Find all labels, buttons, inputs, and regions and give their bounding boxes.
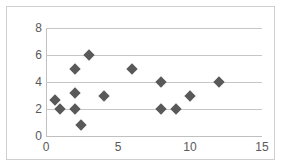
data-point [98, 90, 109, 101]
chart-frame: 02468 051015 [6, 6, 275, 160]
data-point [213, 76, 224, 87]
data-point [69, 63, 80, 74]
gridline-y-4 [46, 82, 262, 83]
x-tick-label: 5 [103, 140, 133, 154]
data-point [156, 76, 167, 87]
y-axis-tick-labels: 02468 [13, 28, 42, 136]
data-point [84, 49, 95, 60]
scatter-plot-screenshot: 02468 051015 [0, 0, 282, 167]
y-tick-label: 8 [18, 22, 42, 34]
x-tick-label: 0 [31, 140, 61, 154]
x-axis-line [46, 136, 262, 137]
data-point [55, 103, 66, 114]
y-tick-label: 6 [18, 49, 42, 61]
data-point [75, 120, 86, 131]
plot-area [46, 28, 262, 136]
data-point [156, 103, 167, 114]
data-point [170, 103, 181, 114]
x-tick-label: 15 [247, 140, 277, 154]
gridline-y-8 [46, 28, 262, 29]
data-point [184, 90, 195, 101]
data-point [127, 63, 138, 74]
x-tick-label: 10 [175, 140, 205, 154]
y-tick-label: 4 [18, 76, 42, 88]
y-tick-label: 2 [18, 103, 42, 115]
data-point [69, 87, 80, 98]
gridline-y-6 [46, 55, 262, 56]
data-point [69, 103, 80, 114]
x-axis-tick-labels: 051015 [46, 140, 262, 160]
